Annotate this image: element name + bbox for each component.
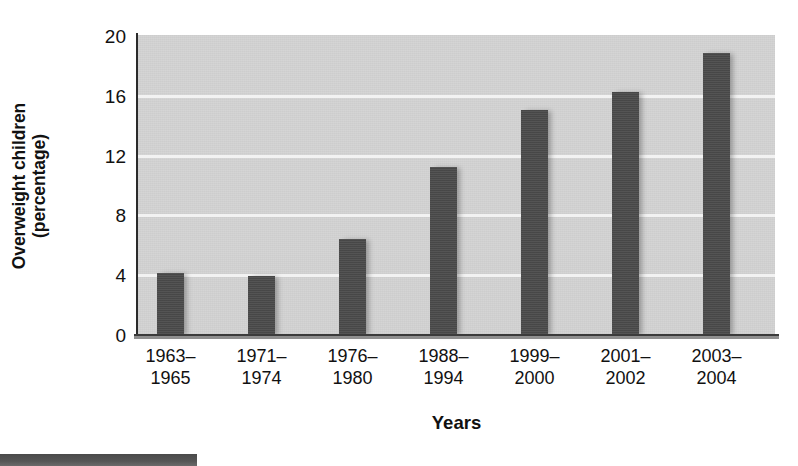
x-tick-line1: 2001– bbox=[600, 346, 650, 366]
x-tick-line1: 1999– bbox=[509, 346, 559, 366]
bar-texture bbox=[430, 167, 457, 336]
x-tick-label-2003-2004: 2003– 2004 bbox=[691, 346, 741, 390]
x-axis-tick-labels: 1963– 1965 1971– 1974 1976– 1980 1988– 1… bbox=[138, 346, 775, 406]
scan-artifact-strip bbox=[0, 454, 197, 466]
bar-2003-2004 bbox=[703, 53, 730, 336]
y-axis-title-line1: Overweight children bbox=[9, 103, 29, 269]
x-tick-line1: 1988– bbox=[418, 346, 468, 366]
bar-texture bbox=[248, 276, 275, 336]
x-tick-line2: 1965 bbox=[145, 368, 195, 390]
bar-1963-1965 bbox=[157, 273, 184, 336]
y-tick-label: 16 bbox=[58, 86, 134, 105]
y-axis-line bbox=[136, 33, 138, 338]
gridline-12 bbox=[138, 155, 775, 158]
x-tick-line1: 1963– bbox=[145, 346, 195, 366]
bar-chart-figure: Overweight children (percentage) 0 4 8 1… bbox=[0, 0, 798, 466]
x-tick-label-1988-1994: 1988– 1994 bbox=[418, 346, 468, 390]
bar-texture bbox=[157, 273, 184, 336]
x-tick-line1: 2003– bbox=[691, 346, 741, 366]
x-tick-label-1999-2000: 1999– 2000 bbox=[509, 346, 559, 390]
bar-1999-2000 bbox=[521, 110, 548, 336]
bar-1988-1994 bbox=[430, 167, 457, 336]
x-tick-line2: 1994 bbox=[418, 368, 468, 390]
bar-1971-1974 bbox=[248, 276, 275, 336]
x-tick-label-1971-1974: 1971– 1974 bbox=[236, 346, 286, 390]
y-axis-title: Overweight children (percentage) bbox=[0, 35, 58, 337]
y-axis-title-line2: (percentage) bbox=[29, 103, 49, 269]
x-tick-line1: 1976– bbox=[327, 346, 377, 366]
x-tick-line2: 2004 bbox=[691, 368, 741, 390]
bar-texture bbox=[339, 239, 366, 336]
gridline-16 bbox=[138, 95, 775, 98]
x-tick-line2: 2000 bbox=[509, 368, 559, 390]
y-tick-label: 4 bbox=[58, 266, 134, 285]
x-tick-line2: 1980 bbox=[327, 368, 377, 390]
plot-area bbox=[138, 35, 775, 336]
x-tick-label-2001-2002: 2001– 2002 bbox=[600, 346, 650, 390]
bar-1976-1980 bbox=[339, 239, 366, 336]
x-axis-title: Years bbox=[138, 412, 775, 434]
x-axis-shadow-line bbox=[134, 336, 779, 339]
y-tick-label: 12 bbox=[58, 146, 134, 165]
x-tick-line2: 2002 bbox=[600, 368, 650, 390]
x-tick-label-1976-1980: 1976– 1980 bbox=[327, 346, 377, 390]
bar-texture bbox=[612, 92, 639, 336]
x-tick-line1: 1971– bbox=[236, 346, 286, 366]
y-tick-label: 20 bbox=[58, 27, 134, 46]
bar-2001-2002 bbox=[612, 92, 639, 336]
y-tick-label: 8 bbox=[58, 206, 134, 225]
y-axis-title-text: Overweight children (percentage) bbox=[9, 103, 50, 269]
bar-texture bbox=[521, 110, 548, 336]
y-tick-label: 0 bbox=[58, 326, 134, 345]
x-tick-label-1963-1965: 1963– 1965 bbox=[145, 346, 195, 390]
bar-texture bbox=[703, 53, 730, 336]
x-tick-line2: 1974 bbox=[236, 368, 286, 390]
y-axis-tick-labels: 0 4 8 12 16 20 bbox=[58, 0, 134, 466]
